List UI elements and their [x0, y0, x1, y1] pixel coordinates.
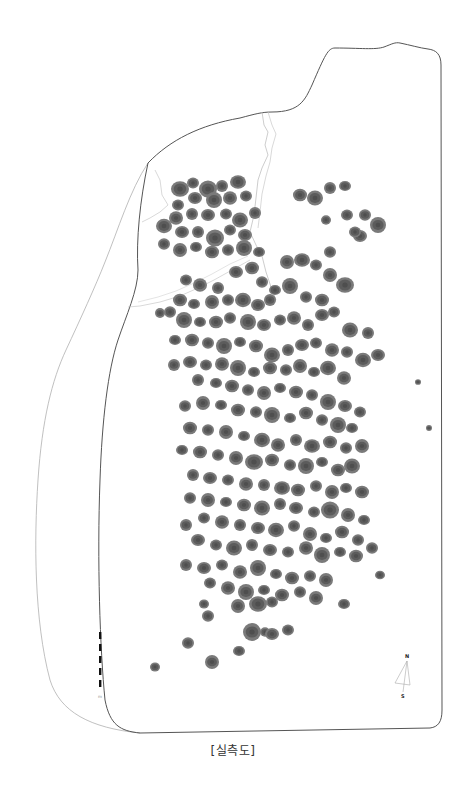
- stone: [221, 581, 235, 594]
- stone: [215, 515, 229, 528]
- stone: [231, 404, 245, 417]
- stone: [254, 433, 270, 447]
- stone: [256, 276, 268, 287]
- stone: [248, 367, 260, 377]
- stone: [238, 431, 250, 441]
- stone: [289, 386, 303, 399]
- stone: [257, 386, 271, 400]
- stone: [192, 226, 204, 238]
- stone: [258, 479, 270, 491]
- stone: [287, 311, 301, 324]
- stone: [337, 371, 351, 384]
- stone: [245, 454, 263, 469]
- stone: [250, 560, 266, 576]
- stone: [340, 483, 352, 493]
- stone: [308, 507, 320, 518]
- stone: [249, 340, 263, 353]
- stone: [230, 175, 246, 189]
- stone: [180, 275, 192, 286]
- stone: [212, 282, 224, 294]
- stone: [188, 192, 202, 204]
- scale-bar-segment: [99, 680, 101, 687]
- stone: [294, 586, 306, 597]
- scale-bar-segment: [99, 656, 101, 663]
- stone: [200, 360, 212, 371]
- stone: [338, 599, 350, 609]
- stone: [238, 229, 252, 241]
- stone: [349, 550, 363, 563]
- stone: [362, 327, 374, 339]
- stone: [201, 493, 215, 507]
- stone: [216, 560, 228, 571]
- stone: [169, 335, 181, 345]
- stone: [359, 209, 371, 220]
- stone: [344, 458, 360, 473]
- stone: [304, 439, 320, 453]
- stone: [210, 378, 222, 388]
- stone: [182, 637, 194, 648]
- stone: [282, 625, 294, 636]
- stone: [186, 208, 198, 220]
- stone: [246, 539, 258, 551]
- stone: [302, 319, 314, 331]
- stone: [316, 414, 328, 425]
- stone: [187, 178, 199, 189]
- stone: [194, 317, 206, 327]
- stone: [284, 413, 296, 423]
- stone: [237, 499, 251, 512]
- scale-bar-segment: [99, 668, 101, 675]
- stone: [226, 540, 242, 555]
- stone: [198, 513, 210, 524]
- stone: [234, 337, 246, 347]
- stone: [308, 367, 320, 377]
- stone: [274, 383, 286, 393]
- stone: [299, 407, 313, 420]
- stone: [310, 260, 322, 271]
- stone: [210, 540, 222, 551]
- stone: [315, 294, 329, 307]
- stone: [158, 238, 170, 249]
- stone: [205, 246, 219, 259]
- stone: [209, 316, 223, 329]
- stone: [233, 565, 247, 578]
- stone: [222, 475, 234, 486]
- stone: [325, 343, 339, 356]
- stone: [268, 523, 284, 537]
- stone: [257, 319, 271, 331]
- stone: [330, 417, 346, 433]
- stone: [415, 379, 421, 385]
- stone: [173, 294, 187, 307]
- stone: [316, 457, 328, 467]
- stone: [190, 242, 202, 252]
- stone: [340, 442, 352, 453]
- stone: [371, 349, 385, 361]
- stone: [293, 359, 307, 373]
- stone: [215, 357, 229, 370]
- stone: [320, 394, 336, 410]
- stone: [183, 356, 197, 368]
- stone: [206, 192, 222, 208]
- stone: [315, 309, 329, 321]
- stone: [266, 597, 278, 608]
- stone: [185, 334, 199, 347]
- stone: [233, 646, 245, 656]
- stone: [220, 497, 232, 507]
- stone: [212, 449, 224, 460]
- north-arrow: N S: [395, 653, 410, 699]
- stone: [284, 459, 296, 470]
- stone: [274, 315, 286, 326]
- stone: [202, 610, 214, 621]
- stone: [231, 599, 245, 613]
- stone: [352, 534, 364, 545]
- stone: [176, 312, 192, 328]
- stone: [349, 227, 361, 238]
- stone: [274, 498, 286, 510]
- stone: [336, 277, 354, 292]
- stone: [366, 542, 378, 553]
- stone: [282, 547, 294, 558]
- stone: [205, 295, 219, 309]
- stone: [219, 425, 233, 439]
- stone: [254, 500, 270, 515]
- stone: [258, 585, 270, 595]
- stone: [191, 534, 205, 546]
